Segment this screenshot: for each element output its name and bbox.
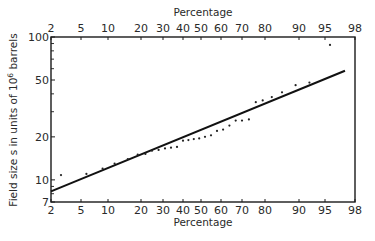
data-point — [60, 174, 62, 176]
axis-ticks — [51, 37, 355, 202]
data-point — [198, 137, 200, 139]
data-point — [210, 134, 212, 136]
probability-plot: Percentage 251020304050607080909598 7102… — [0, 0, 375, 241]
x-tick-label-bottom: 98 — [348, 204, 362, 217]
x-tick-label-bottom: 10 — [101, 204, 115, 217]
y-tick-label: 20 — [35, 131, 49, 144]
data-point — [222, 128, 224, 130]
data-point — [158, 149, 160, 151]
x-tick-label-bottom: 95 — [318, 204, 332, 217]
x-tick-label-top: 5 — [78, 22, 85, 35]
y-tick-label: 100 — [28, 31, 49, 44]
data-point — [85, 173, 87, 175]
data-point — [248, 118, 250, 120]
x-tick-label-top: 98 — [348, 22, 362, 35]
data-point — [176, 146, 178, 148]
data-point — [295, 84, 297, 86]
data-point — [144, 153, 146, 155]
x-tick-label-top: 30 — [156, 22, 170, 35]
x-axis-top-title: Percentage — [173, 6, 232, 18]
data-point — [137, 154, 139, 156]
x-tick-label-bottom: 90 — [292, 204, 306, 217]
x-tick-label-top: 60 — [214, 22, 228, 35]
data-point — [164, 147, 166, 149]
y-axis-title-main: Field size s in units of 10 — [7, 78, 19, 207]
y-tick-label: 10 — [35, 174, 49, 187]
x-tick-label-bottom: 2 — [48, 204, 55, 217]
y-tick-label: 50 — [35, 74, 49, 87]
x-tick-label-bottom: 5 — [78, 204, 85, 217]
plot-frame — [51, 37, 355, 202]
x-tick-label-top: 20 — [134, 22, 148, 35]
x-axis-top-tick-labels: 251020304050607080909598 — [48, 22, 363, 35]
x-tick-label-top: 40 — [176, 22, 190, 35]
data-point — [127, 158, 129, 160]
fit-line — [51, 71, 345, 192]
data-point — [262, 99, 264, 101]
data-point — [235, 119, 237, 121]
x-tick-label-bottom: 80 — [258, 204, 272, 217]
data-point — [114, 162, 116, 164]
data-point — [182, 140, 184, 142]
x-tick-label-top: 80 — [258, 22, 272, 35]
y-axis-tick-labels: 7102050100 — [28, 31, 49, 209]
data-point — [255, 101, 257, 103]
x-tick-label-bottom: 30 — [156, 204, 170, 217]
data-point — [187, 139, 189, 141]
data-point — [170, 147, 172, 149]
x-tick-label-top: 95 — [318, 22, 332, 35]
x-axis-bottom-title: Percentage — [173, 216, 232, 228]
x-tick-label-bottom: 20 — [134, 204, 148, 217]
y-axis-title: Field size s in units of 106 barrels — [6, 33, 19, 206]
x-tick-label-top: 70 — [235, 22, 249, 35]
data-point — [271, 96, 273, 98]
data-point — [193, 138, 195, 140]
data-points — [60, 44, 331, 176]
data-point — [281, 91, 283, 93]
x-tick-label-top: 50 — [194, 22, 208, 35]
x-tick-label-top: 90 — [292, 22, 306, 35]
y-axis-title-tail: barrels — [7, 33, 19, 73]
data-point — [151, 150, 153, 152]
x-tick-label-top: 10 — [101, 22, 115, 35]
x-tick-label-bottom: 70 — [235, 204, 249, 217]
data-point — [228, 124, 230, 126]
data-point — [329, 44, 331, 46]
data-point — [241, 119, 243, 121]
data-point — [308, 81, 310, 83]
data-point — [216, 130, 218, 132]
data-point — [204, 136, 206, 138]
data-point — [102, 167, 104, 169]
